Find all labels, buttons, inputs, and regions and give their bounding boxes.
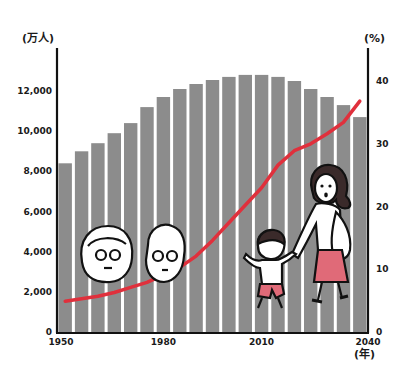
left-tick-label: 6,000 [24, 207, 52, 217]
bar-1980 [157, 97, 170, 332]
right-axis-ticks: 010203040 [376, 76, 389, 337]
bar-1995 [206, 80, 219, 332]
left-tick-label: 12,000 [17, 86, 52, 96]
x-tick-label: 2040 [355, 337, 380, 347]
left-tick-label: 10,000 [17, 126, 52, 136]
left-axis-unit-label: (万人) [22, 31, 54, 45]
right-axis-unit-label: (%) [364, 32, 385, 45]
chart: (万人) (%) (年) 02,0004,0006,0008,00010,000… [0, 0, 413, 386]
left-tick-label: 8,000 [24, 166, 52, 176]
bar-1950 [59, 163, 72, 332]
x-tick-label: 2010 [249, 337, 274, 347]
left-tick-label: 2,000 [24, 287, 52, 297]
x-axis-unit-label: (年) [354, 347, 375, 361]
left-axis-ticks: 02,0004,0006,0008,00010,00012,000 [17, 86, 52, 337]
right-tick-label: 40 [376, 76, 389, 86]
left-tick-label: 0 [46, 327, 52, 337]
bar-2000 [222, 77, 235, 332]
bar-1975 [140, 107, 153, 332]
x-tick-label: 1950 [48, 337, 73, 347]
bar-1990 [189, 84, 202, 332]
right-tick-label: 20 [376, 202, 389, 212]
bar-2020 [288, 81, 301, 332]
x-axis-ticks: 1950198020102040 [48, 337, 380, 347]
bar-2040 [353, 117, 366, 332]
x-tick-label: 1980 [151, 337, 176, 347]
bar-1985 [173, 89, 186, 332]
right-tick-label: 10 [376, 264, 389, 274]
left-tick-label: 4,000 [24, 247, 52, 257]
bar-1970 [124, 123, 137, 332]
right-tick-label: 30 [376, 139, 389, 149]
right-tick-label: 0 [376, 327, 382, 337]
